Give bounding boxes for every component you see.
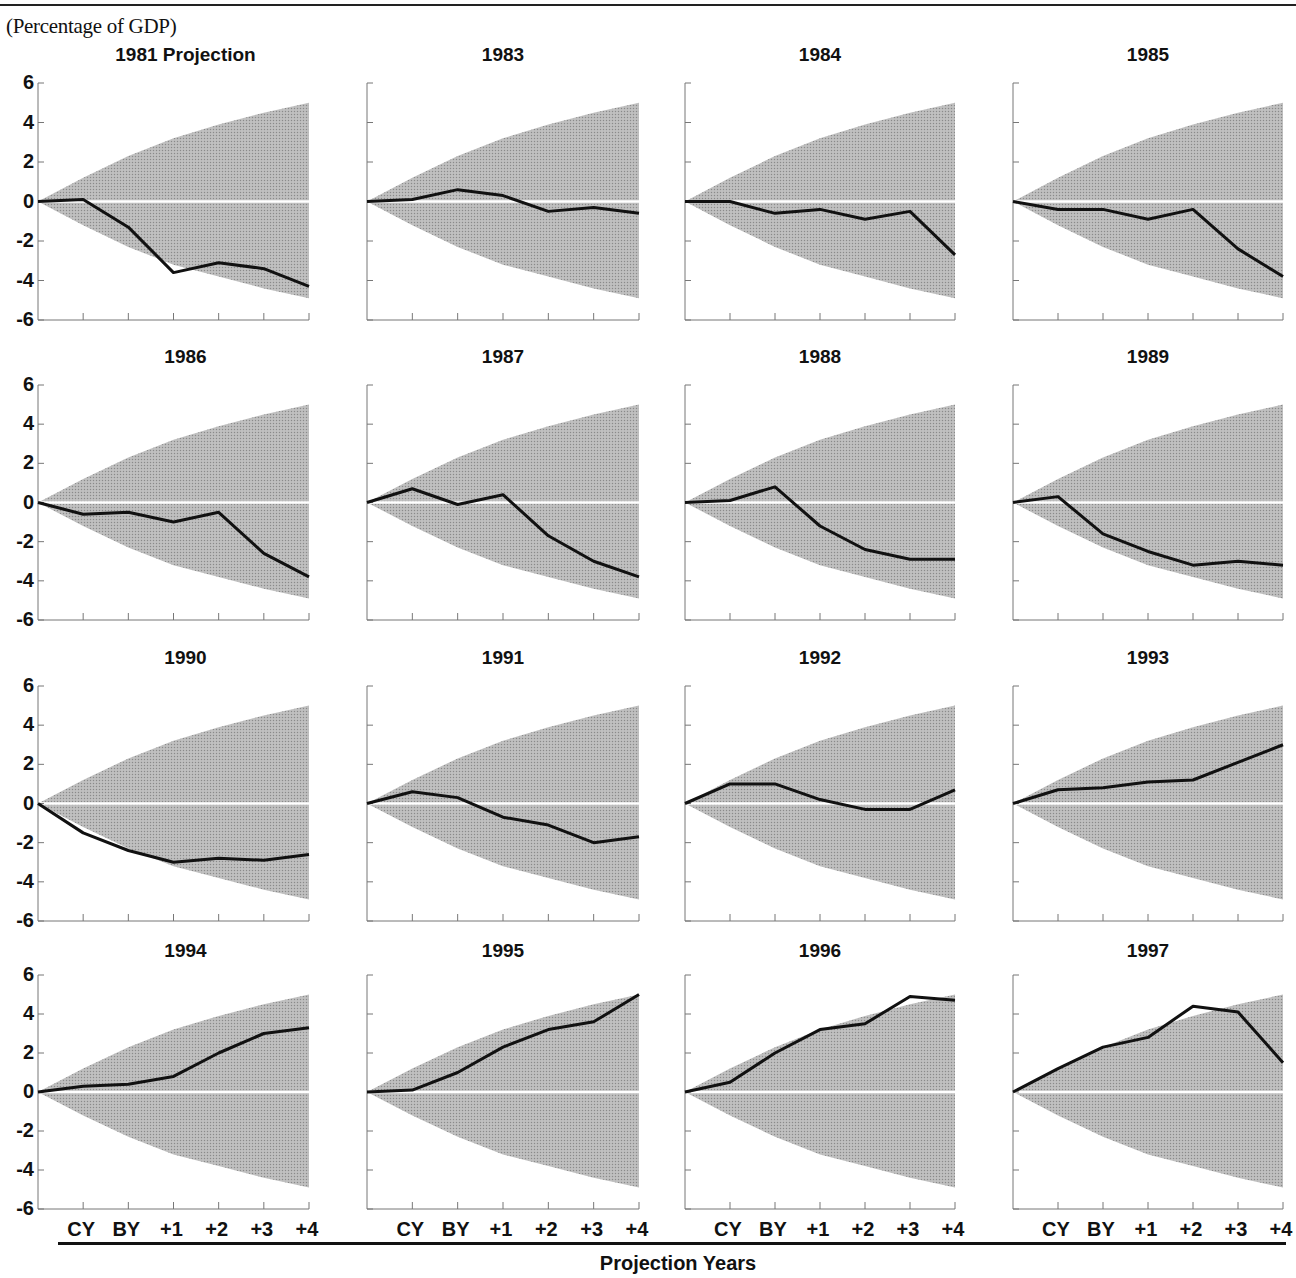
- panel-title: 1987: [363, 346, 643, 368]
- x-tick-label: +1: [481, 1218, 521, 1241]
- panel-title: 1983: [363, 44, 643, 66]
- y-tick-label: 2: [0, 752, 34, 775]
- x-tick-label: +3: [572, 1218, 612, 1241]
- x-tick-label: BY: [753, 1218, 793, 1241]
- y-tick-label: 4: [0, 412, 34, 435]
- x-tick-label: CY: [390, 1218, 430, 1241]
- y-tick-label: -2: [0, 1119, 34, 1142]
- y-tick-label: 0: [0, 792, 34, 815]
- x-axis-rule: [58, 1242, 1286, 1245]
- y-tick-label: -4: [0, 269, 34, 292]
- x-axis-title: Projection Years: [0, 1252, 1296, 1275]
- panel-title: 1994: [46, 940, 326, 962]
- panel-title: 1995: [363, 940, 643, 962]
- y-tick-label: 6: [0, 963, 34, 986]
- x-tick-label: +2: [1171, 1218, 1211, 1241]
- y-tick-label: -4: [0, 569, 34, 592]
- panel-title: 1992: [680, 647, 960, 669]
- y-tick-label: 2: [0, 1041, 34, 1064]
- panel-1990: [38, 686, 309, 921]
- panel-title: 1986: [46, 346, 326, 368]
- panel-1983: [367, 83, 639, 320]
- y-tick-label: 4: [0, 713, 34, 736]
- x-tick-label: BY: [436, 1218, 476, 1241]
- x-tick-label: CY: [708, 1218, 748, 1241]
- x-tick-label: +1: [152, 1218, 192, 1241]
- y-tick-label: -4: [0, 870, 34, 893]
- x-tick-label: CY: [61, 1218, 101, 1241]
- panel-1994: [38, 975, 309, 1209]
- x-tick-label: +3: [242, 1218, 282, 1241]
- panel-title: 1990: [46, 647, 326, 669]
- x-tick-label: BY: [106, 1218, 146, 1241]
- panel-1993: [1013, 686, 1283, 921]
- y-tick-label: -6: [0, 308, 34, 331]
- panel-title: 1993: [1008, 647, 1288, 669]
- panel-1987: [367, 385, 639, 620]
- x-tick-label: +4: [287, 1218, 327, 1241]
- panel-1997: [1013, 975, 1283, 1209]
- y-tick-label: -2: [0, 831, 34, 854]
- y-tick-label: -6: [0, 608, 34, 631]
- x-tick-label: CY: [1036, 1218, 1076, 1241]
- panel-title: 1988: [680, 346, 960, 368]
- panel-1996: [685, 975, 955, 1209]
- x-tick-label: +2: [197, 1218, 237, 1241]
- x-tick-label: +2: [526, 1218, 566, 1241]
- panel-title: 1989: [1008, 346, 1288, 368]
- x-tick-label: BY: [1081, 1218, 1121, 1241]
- x-tick-label: +3: [1216, 1218, 1256, 1241]
- panel-title: 1981 Projection: [46, 44, 326, 66]
- x-tick-label: +1: [798, 1218, 838, 1241]
- y-tick-label: -4: [0, 1158, 34, 1181]
- y-tick-label: 0: [0, 491, 34, 514]
- panel-title: 1985: [1008, 44, 1288, 66]
- panel-1989: [1013, 385, 1283, 620]
- panel-1984: [685, 83, 955, 320]
- panel-1992: [685, 686, 955, 921]
- x-tick-label: +2: [843, 1218, 883, 1241]
- y-tick-label: 6: [0, 373, 34, 396]
- x-tick-label: +4: [617, 1218, 657, 1241]
- x-tick-label: +3: [888, 1218, 928, 1241]
- y-tick-label: 4: [0, 111, 34, 134]
- y-tick-label: -2: [0, 530, 34, 553]
- panel-title: 1984: [680, 44, 960, 66]
- panel-title: 1991: [363, 647, 643, 669]
- y-tick-label: 4: [0, 1002, 34, 1025]
- panel-1988: [685, 385, 955, 620]
- y-tick-label: 6: [0, 71, 34, 94]
- y-tick-label: 2: [0, 451, 34, 474]
- y-tick-label: 0: [0, 190, 34, 213]
- y-tick-label: -6: [0, 909, 34, 932]
- panel-title: 1996: [680, 940, 960, 962]
- panel-1995: [367, 975, 639, 1209]
- y-tick-label: 2: [0, 150, 34, 173]
- x-tick-label: +4: [933, 1218, 973, 1241]
- y-tick-label: 0: [0, 1080, 34, 1103]
- y-tick-label: 6: [0, 674, 34, 697]
- panel-1981-projection: [38, 83, 309, 320]
- x-tick-label: +4: [1261, 1218, 1296, 1241]
- panel-title: 1997: [1008, 940, 1288, 962]
- small-multiples-chart: [0, 0, 1296, 1278]
- panel-1991: [367, 686, 639, 921]
- x-tick-label: +1: [1126, 1218, 1166, 1241]
- y-tick-label: -2: [0, 229, 34, 252]
- panel-1986: [38, 385, 309, 620]
- y-tick-label: -6: [0, 1197, 34, 1220]
- panel-1985: [1013, 83, 1283, 320]
